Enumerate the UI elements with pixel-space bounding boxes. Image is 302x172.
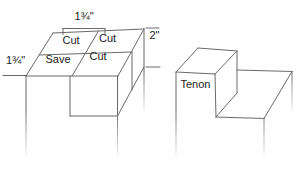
shoulder-left-edge [216, 93, 237, 117]
quadrant-label-cut-front: Cut [89, 50, 106, 62]
depth-dim-label: 1¾" [6, 54, 25, 66]
width-dim-label: 1¾" [74, 10, 93, 22]
diagram-canvas: 1¾" 1¾" 2" Cut Cut Save Cut [0, 0, 302, 172]
tenon-top-left-edge [176, 48, 198, 72]
tenon-front-corner-edge [215, 74, 216, 117]
side-face-shoulder-line [118, 67, 145, 116]
quadrant-label-cut-back-right: Cut [99, 32, 116, 44]
height-dim-label: 2" [150, 29, 160, 41]
quadrant-label-cut-back-left: Cut [62, 34, 79, 46]
shoulder-front-edge [216, 117, 264, 119]
tenon-top-back-edge [198, 48, 237, 51]
shoulder-back-edge [237, 70, 292, 72]
tenon-result-labels: Tenon [181, 78, 211, 90]
tenon-diagram: 1¾" 1¾" 2" Cut Cut Save Cut [0, 0, 302, 172]
tenon-top-right-edge [215, 51, 237, 74]
tenon-result-figure [176, 48, 292, 158]
quadrant-label-save: Save [45, 53, 70, 65]
tenon-label: Tenon [181, 78, 211, 90]
shoulder-right-edge [264, 72, 292, 119]
tenon-top-front-edge [176, 72, 215, 74]
stock-layout-figure [3, 28, 160, 157]
